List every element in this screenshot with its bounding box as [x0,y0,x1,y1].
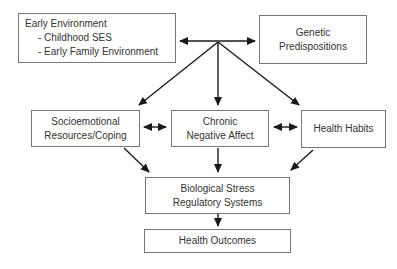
socioemotional-label: Socioemotional Resources/Coping [44,115,126,143]
arrow-health-habits-biological [291,150,313,170]
health-habits-label: Health Habits [313,122,373,136]
chronic-negative-affect-box: Chronic Negative Affect [171,110,269,147]
health-outcomes-label: Health Outcomes [179,234,256,248]
early-environment-box: Early Environment - Childhood SES - Earl… [18,13,176,63]
health-outcomes-box: Health Outcomes [144,229,291,253]
biological-stress-box: Biological Stress Regulatory Systems [145,177,290,214]
genetic-predispositions-box: Genetic Predispositions [259,15,367,64]
chronic-negative-affect-label: Chronic Negative Affect [186,115,253,143]
early-environment-item-childhood-ses: - Childhood SES [38,31,170,45]
biological-stress-label: Biological Stress Regulatory Systems [173,182,262,210]
early-environment-item-family: - Early Family Environment [38,45,170,59]
path-diagram: Early Environment - Childhood SES - Earl… [0,0,397,269]
genetic-predispositions-label: Genetic Predispositions [279,26,347,54]
arrow-socioemotional-biological [124,148,149,172]
socioemotional-box: Socioemotional Resources/Coping [31,110,140,147]
health-habits-box: Health Habits [301,110,386,148]
early-environment-title: Early Environment [25,17,170,31]
